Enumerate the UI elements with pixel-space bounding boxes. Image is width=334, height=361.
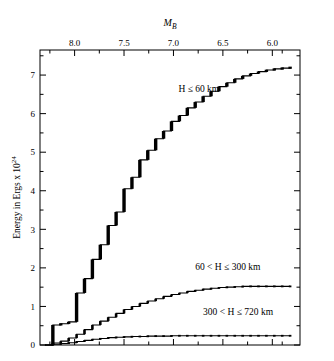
series-step — [107, 225, 110, 244]
series-line — [45, 67, 290, 345]
series-step — [265, 70, 268, 72]
series-step — [154, 299, 157, 301]
series-step — [186, 108, 189, 116]
series-step — [67, 322, 70, 324]
series-step — [289, 285, 292, 287]
y-axis-tick-label: 6 — [31, 109, 36, 119]
energy-vs-magnitude-chart: 8.07.57.06.56.001234567MBEnergy in Ergs … — [0, 0, 334, 361]
series-step — [162, 296, 165, 298]
series-step — [123, 310, 126, 314]
series-step — [146, 150, 149, 160]
series-step — [210, 335, 213, 337]
series-step — [249, 335, 252, 337]
series-step — [170, 294, 173, 296]
series-step — [178, 293, 181, 295]
annotation-deep: 300 < H ≤ 720 km — [203, 307, 274, 317]
series-step — [67, 338, 70, 341]
plot-frame — [40, 50, 300, 345]
series-step — [123, 336, 126, 338]
x-axis-tick-label: 8.0 — [69, 38, 81, 48]
series-step — [107, 317, 110, 321]
series-step — [83, 340, 86, 342]
series-step — [233, 286, 236, 288]
series-step — [233, 79, 236, 83]
series-step — [59, 341, 62, 343]
series-step — [241, 76, 244, 79]
y-axis-tick-label: 0 — [31, 340, 36, 350]
series-line — [45, 336, 290, 345]
series-step — [225, 83, 228, 87]
y-axis-tick-label: 1 — [31, 302, 36, 312]
x-axis-tick-label: 6.5 — [217, 38, 229, 48]
series-step — [91, 259, 94, 278]
series-step — [170, 121, 173, 131]
series-step — [162, 335, 165, 337]
series-step — [59, 323, 62, 325]
series-step — [99, 245, 102, 260]
series-step — [162, 131, 165, 139]
series-step — [99, 321, 102, 325]
series-step — [130, 177, 133, 189]
series-step — [146, 335, 149, 337]
series-step — [75, 334, 78, 338]
series-step — [202, 289, 205, 291]
x-axis-tick-label: 6.0 — [267, 38, 279, 48]
series-step — [218, 287, 221, 289]
series-step — [201, 96, 204, 102]
series-step — [139, 336, 142, 338]
x-axis-tick-label: 7.5 — [118, 38, 130, 48]
series-step — [83, 279, 86, 293]
series-step — [289, 335, 292, 337]
series-step — [202, 335, 205, 337]
series-step — [226, 335, 229, 337]
series-step — [75, 341, 78, 343]
series-step — [257, 285, 260, 287]
series-1-staircase — [45, 67, 292, 345]
series-step — [99, 338, 102, 340]
series-step — [194, 335, 197, 337]
top-axis-title: MB — [163, 17, 177, 31]
series-step — [241, 286, 244, 288]
series-step — [75, 293, 78, 322]
series-step — [281, 285, 284, 287]
series-step — [114, 212, 117, 226]
series-step — [91, 339, 94, 341]
y-axis-tick-label: 3 — [31, 225, 36, 235]
y-axis-tick-label: 5 — [31, 147, 36, 157]
series-step — [194, 290, 197, 292]
series-step — [154, 139, 157, 151]
series-step — [131, 306, 134, 309]
series-step — [51, 325, 54, 345]
series-step — [91, 325, 94, 330]
series-step — [186, 335, 189, 337]
series-step — [178, 335, 181, 337]
series-step — [288, 67, 291, 69]
y-axis-tick-label: 2 — [31, 263, 36, 273]
series-step — [83, 330, 86, 335]
series-step — [257, 335, 260, 337]
y-axis-tick-label: 4 — [31, 186, 36, 196]
series-step — [139, 303, 142, 306]
annotation-shallow: H ≤ 60 km — [178, 84, 219, 94]
series-step — [59, 343, 62, 345]
series-step — [122, 189, 125, 212]
series-step — [170, 335, 173, 337]
series-step — [218, 335, 221, 337]
series-step — [241, 335, 244, 337]
series-step — [210, 288, 213, 290]
series-step — [226, 286, 229, 288]
series-step — [273, 68, 276, 70]
y-axis-title: Energy in Ergs x 1024 — [10, 156, 22, 239]
series-step — [178, 116, 181, 122]
series-step — [273, 335, 276, 337]
series-step — [138, 160, 141, 177]
series-step — [115, 313, 118, 317]
series-step — [273, 285, 276, 287]
y-axis-tick-label: 7 — [31, 70, 36, 80]
series-step — [257, 71, 260, 73]
series-step — [146, 301, 149, 303]
series-step — [194, 102, 197, 108]
series-step — [281, 67, 284, 69]
series-step — [154, 335, 157, 337]
series-step — [265, 335, 268, 337]
